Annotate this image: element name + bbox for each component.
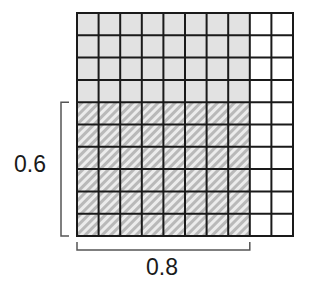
grid-cell-shaded (120, 58, 142, 80)
grid-cell-hatched (120, 102, 142, 124)
grid-cell-shaded (142, 13, 164, 35)
grid-cell-hatched (99, 125, 121, 147)
grid-cell-empty (250, 147, 272, 169)
grid-cell-hatched (99, 214, 121, 236)
grid-cell-hatched (77, 214, 99, 236)
grid-cell-empty (271, 80, 293, 102)
grid-cell-hatched (142, 102, 164, 124)
grid-cell-empty (271, 191, 293, 213)
grid-cell-shaded (163, 58, 185, 80)
grid-cell-shaded (77, 35, 99, 57)
grid-cell-shaded (77, 80, 99, 102)
grid-cell-empty (250, 214, 272, 236)
grid-cell-shaded (77, 58, 99, 80)
grid-cell-hatched (163, 191, 185, 213)
grid-cell-hatched (163, 102, 185, 124)
grid-cell-hatched (185, 214, 207, 236)
area-model-diagram (0, 0, 315, 288)
grid-cell-shaded (228, 58, 250, 80)
grid-cell-hatched (142, 214, 164, 236)
grid-cell-hatched (77, 169, 99, 191)
grid-cell-shaded (207, 80, 229, 102)
grid-cell-shaded (99, 80, 121, 102)
grid-cell-hatched (120, 214, 142, 236)
grid-cell-hatched (185, 147, 207, 169)
grid-cell-hatched (228, 169, 250, 191)
grid-cell-hatched (228, 102, 250, 124)
horizontal-bracket-label: 0.8 (146, 256, 178, 279)
grid-cell-empty (250, 35, 272, 57)
grid-cell-hatched (163, 125, 185, 147)
grid-cell-hatched (228, 214, 250, 236)
grid-cell-shaded (185, 58, 207, 80)
grid-cell-shaded (77, 13, 99, 35)
grid-cell-empty (250, 80, 272, 102)
grid-cell-empty (271, 102, 293, 124)
grid-cell-empty (271, 35, 293, 57)
vertical-bracket-label: 0.6 (14, 153, 46, 176)
vertical-bracket (61, 102, 69, 236)
grid-cell-hatched (185, 125, 207, 147)
grid-cell-hatched (99, 102, 121, 124)
grid-cell-shaded (185, 13, 207, 35)
grid-cell-hatched (120, 147, 142, 169)
grid-cell-shaded (207, 13, 229, 35)
grid-cell-empty (271, 169, 293, 191)
grid-cell-shaded (185, 80, 207, 102)
grid-cell-hatched (77, 102, 99, 124)
grid-cell-hatched (207, 147, 229, 169)
vertical-bracket-line (61, 102, 69, 236)
grid-cell-shaded (120, 35, 142, 57)
grid-cell-hatched (120, 125, 142, 147)
grid-cell-shaded (163, 13, 185, 35)
grid-cell-hatched (228, 191, 250, 213)
grid-cell-hatched (142, 147, 164, 169)
grid-cell-shaded (228, 13, 250, 35)
grid-cell-empty (250, 58, 272, 80)
grid-cell-shaded (228, 80, 250, 102)
grid-cell-shaded (185, 35, 207, 57)
grid-cell-shaded (163, 80, 185, 102)
grid-cell-shaded (207, 35, 229, 57)
grid-cell-hatched (185, 191, 207, 213)
grid-cell-hatched (99, 169, 121, 191)
grid-cell-shaded (142, 58, 164, 80)
grid-cell-empty (271, 214, 293, 236)
grid-cell-hatched (185, 169, 207, 191)
grid-cell-hatched (207, 169, 229, 191)
grid-cell-shaded (228, 35, 250, 57)
grid-cell-shaded (142, 35, 164, 57)
grid-cell-hatched (163, 169, 185, 191)
grid-cell-hatched (120, 169, 142, 191)
grid-cell-empty (250, 191, 272, 213)
grid-cell-empty (271, 125, 293, 147)
grid-cell-hatched (142, 169, 164, 191)
grid-cell-empty (250, 125, 272, 147)
grid-cell-hatched (228, 147, 250, 169)
grid-cell-hatched (77, 191, 99, 213)
grid-cell-hatched (207, 102, 229, 124)
grid-cell-hatched (99, 147, 121, 169)
grid-cell-shaded (120, 13, 142, 35)
grid-cell-hatched (120, 191, 142, 213)
grid-cell-shaded (120, 80, 142, 102)
grid-cell-hatched (77, 125, 99, 147)
grid-cell-empty (271, 147, 293, 169)
grid-cell-hatched (207, 191, 229, 213)
grid-cell-empty (250, 102, 272, 124)
grid-cell-shaded (99, 13, 121, 35)
grid-cell-empty (250, 13, 272, 35)
grid-cell-shaded (99, 35, 121, 57)
grid-cell-shaded (163, 35, 185, 57)
grid-cell-hatched (77, 147, 99, 169)
grid-cell-shaded (99, 58, 121, 80)
grid-cell-empty (271, 13, 293, 35)
grid-cell-empty (271, 58, 293, 80)
horizontal-bracket-line (77, 242, 250, 250)
grid-cell-hatched (228, 125, 250, 147)
grid-cell-hatched (142, 125, 164, 147)
grid-cell-shaded (207, 58, 229, 80)
grid-cell-hatched (207, 214, 229, 236)
grid-cell-hatched (207, 125, 229, 147)
horizontal-bracket (77, 242, 250, 250)
